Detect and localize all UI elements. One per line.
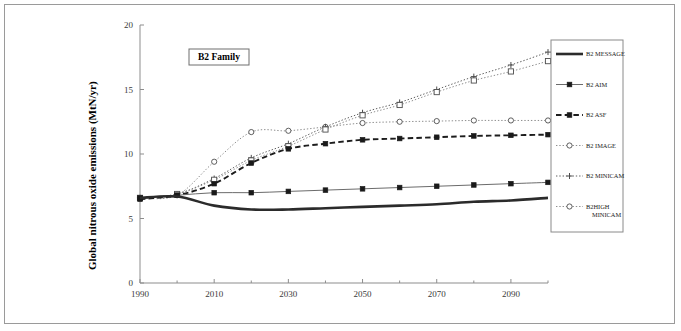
data-point <box>434 119 439 124</box>
data-point <box>323 127 328 132</box>
data-point <box>397 102 402 107</box>
data-point <box>360 113 365 118</box>
series-b2-asf <box>138 132 551 201</box>
data-point <box>508 69 513 74</box>
data-point <box>286 147 291 152</box>
x-tick-label: 2050 <box>354 289 373 299</box>
data-point <box>471 118 476 123</box>
y-tick-label: 0 <box>129 278 134 288</box>
series-line <box>140 120 548 198</box>
series-b2-aim <box>138 180 551 200</box>
data-point <box>434 184 439 189</box>
data-point <box>509 133 514 138</box>
legend-marker <box>567 204 572 209</box>
series-layer <box>137 49 551 210</box>
legend: B2 MESSAGEB2 AIMB2 ASFB2 IMAGEB2 MINICAM… <box>551 40 625 232</box>
data-point <box>545 59 550 64</box>
data-point <box>286 189 291 194</box>
x-tick-label: 2010 <box>205 289 224 299</box>
legend-marker <box>567 143 572 148</box>
data-point <box>286 128 291 133</box>
series-b2-image <box>137 118 550 201</box>
data-point <box>360 187 365 192</box>
data-point <box>434 135 439 140</box>
chart-svg: Global nitrous oxide emissions (MtN/yr) … <box>0 0 681 331</box>
legend-label: B2 ASF <box>586 111 607 118</box>
data-point <box>472 183 477 188</box>
x-tick-group: 199020102030205020702090 <box>131 279 548 299</box>
y-tick-label: 20 <box>124 20 134 30</box>
legend-label: B2 MINICAM <box>586 172 624 179</box>
data-point <box>472 134 477 139</box>
y-tick-label: 15 <box>124 85 134 95</box>
series-b2high-minicam <box>137 59 550 201</box>
data-point <box>212 190 217 195</box>
data-point <box>212 181 217 186</box>
legend-label: B2HIGH <box>586 203 610 210</box>
data-point <box>212 159 217 164</box>
data-point <box>509 181 514 186</box>
x-tick-label: 2090 <box>502 289 521 299</box>
data-point <box>508 118 513 123</box>
data-point <box>546 132 551 137</box>
legend-marker <box>567 82 572 87</box>
data-point <box>249 190 254 195</box>
x-tick-label: 2030 <box>279 289 298 299</box>
series-line <box>140 61 548 198</box>
data-point <box>323 188 328 193</box>
data-point <box>508 62 514 68</box>
data-point <box>360 138 365 143</box>
legend-label: B2 IMAGE <box>586 142 616 149</box>
data-point <box>360 120 365 125</box>
data-point <box>397 119 402 124</box>
y-tick-group: 05101520 <box>124 20 144 288</box>
data-point <box>249 129 254 134</box>
annotation-b2-family: B2 Family <box>189 49 249 65</box>
legend-marker <box>567 113 572 118</box>
series-b2-message <box>140 196 548 210</box>
data-point <box>545 118 550 123</box>
data-point <box>397 185 402 190</box>
series-line <box>140 196 548 210</box>
y-tick-label: 5 <box>129 214 134 224</box>
legend-label: B2 MESSAGE <box>586 50 625 57</box>
data-point <box>397 136 402 141</box>
data-point <box>323 141 328 146</box>
y-axis-title-text: Global nitrous oxide emissions (MtN/yr) <box>86 81 99 270</box>
data-point <box>545 49 551 55</box>
x-tick-label: 2070 <box>428 289 447 299</box>
data-point <box>546 180 551 185</box>
data-point <box>471 78 476 83</box>
y-tick-label: 10 <box>124 149 134 159</box>
data-point <box>249 161 254 166</box>
chart-canvas: Global nitrous oxide emissions (MtN/yr) … <box>0 0 681 331</box>
annotation-box-text: B2 Family <box>198 52 240 62</box>
legend-label: B2 AIM <box>586 81 607 88</box>
legend-label-line2: MINICAM <box>592 211 621 218</box>
data-point <box>434 89 439 94</box>
y-axis-title: Global nitrous oxide emissions (MtN/yr) <box>86 81 99 270</box>
x-tick-label: 1990 <box>131 289 150 299</box>
